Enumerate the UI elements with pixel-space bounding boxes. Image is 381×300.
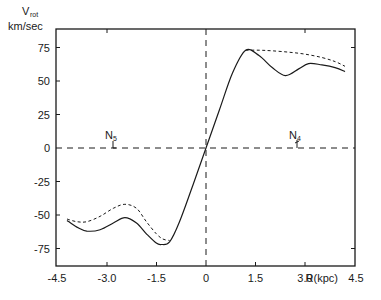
- svg-text:-25: -25: [34, 176, 50, 188]
- svg-text:4: 4: [297, 135, 301, 142]
- svg-text:-1.5: -1.5: [147, 272, 166, 284]
- y-tick-labels: 75 50 25 0 -25 -50 -75: [34, 42, 50, 255]
- y-axis-title: V rot km/sec: [8, 5, 43, 32]
- svg-text:1.5: 1.5: [248, 272, 263, 284]
- dashed-rotation-curve-left: [67, 204, 170, 240]
- svg-text:V: V: [22, 5, 30, 17]
- svg-text:0: 0: [44, 142, 50, 154]
- rotation-curve-chart: 75 50 25 0 -25 -50 -75 -4.5 -3.0 -1.5 0 …: [0, 0, 381, 300]
- annotation-n5: N 5: [105, 129, 117, 148]
- svg-text:0: 0: [203, 272, 209, 284]
- annotation-n4: N 4: [289, 129, 301, 148]
- svg-text:N: N: [289, 129, 297, 141]
- svg-text:km/sec: km/sec: [8, 20, 43, 32]
- svg-text:N: N: [105, 129, 113, 141]
- svg-text:75: 75: [38, 42, 50, 54]
- svg-text:-75: -75: [34, 243, 50, 255]
- svg-text:25: 25: [38, 109, 50, 121]
- svg-text:-50: -50: [34, 209, 50, 221]
- svg-text:5: 5: [113, 135, 117, 142]
- x-axis-title: R(kpc): [306, 272, 338, 284]
- svg-text:4.5: 4.5: [348, 272, 363, 284]
- svg-text:-4.5: -4.5: [48, 272, 67, 284]
- svg-text:50: 50: [38, 75, 50, 87]
- svg-text:-3.0: -3.0: [98, 272, 117, 284]
- dashed-rotation-curve-right: [246, 50, 345, 66]
- svg-text:rot: rot: [30, 11, 38, 18]
